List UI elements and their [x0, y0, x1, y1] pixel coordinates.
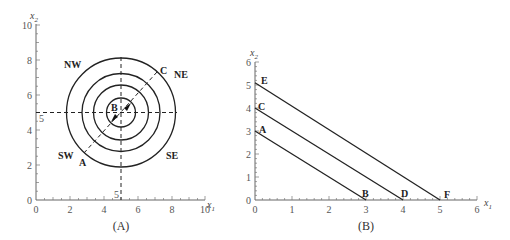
panel-a-y-tick-labels: 0 2 4 6 8 10 [22, 20, 32, 206]
tick-label: 4 [27, 125, 32, 136]
panel-a-x-tick-labels: 0 2 4 6 8 10 [34, 204, 211, 215]
point-a-label: A [79, 157, 87, 168]
point-e-label: E [261, 75, 268, 86]
tick-label: 0 [253, 204, 258, 215]
tick-label: 6 [136, 204, 141, 215]
panel-a-x-ticks [45, 196, 206, 200]
tick-label: 3 [246, 126, 251, 137]
point-a-label: A [259, 124, 267, 135]
point-b-label: B [362, 188, 369, 199]
figure: 0 2 4 6 8 10 0 2 4 6 8 10 x2 x1 [0, 0, 510, 240]
tick-label: 4 [401, 204, 406, 215]
tick-label: 5 [246, 80, 251, 91]
tick-label: 6 [27, 90, 32, 101]
tick-label: 0 [27, 195, 32, 206]
tick-label: 10 [22, 20, 32, 31]
tick-label: 2 [27, 160, 32, 171]
point-f-label: F [444, 189, 450, 200]
panel-a-y-ticks [36, 25, 40, 191]
panel-b-x-axis-label: x1 [483, 197, 492, 211]
tick-label: 1 [290, 204, 295, 215]
panel-b-lines [255, 83, 440, 200]
tick-label: 8 [27, 55, 32, 66]
line-ef [255, 83, 440, 200]
label-sw: SW [58, 150, 74, 161]
line-cd [255, 108, 403, 200]
tick-label: 3 [364, 204, 369, 215]
panel-b-caption: (B) [358, 219, 374, 233]
label-ne: NE [174, 69, 188, 80]
panel-b-labels: A B C D E F [258, 75, 450, 200]
tick-label: 2 [68, 204, 73, 215]
tick-label: 1 [246, 172, 251, 183]
point-c-label: C [160, 65, 167, 76]
point-b-label: B [111, 102, 118, 113]
dashed-label-5-horizontal: 5 [39, 113, 44, 124]
point-d-label: D [401, 188, 408, 199]
label-se: SE [166, 150, 179, 161]
tick-label: 4 [102, 204, 107, 215]
tick-label: 0 [34, 204, 39, 215]
panel-a-dashed-lines [36, 57, 177, 200]
panel-b-x-tick-labels: 0 1 2 3 4 5 6 [253, 204, 480, 215]
tick-label: 2 [246, 149, 251, 160]
panel-a: 0 2 4 6 8 10 0 2 4 6 8 10 x2 x1 [22, 10, 215, 233]
tick-label: 8 [170, 204, 175, 215]
panel-a-caption: (A) [113, 219, 130, 233]
dashed-label-5-vertical: 5 [114, 189, 119, 200]
tick-label: 2 [327, 204, 332, 215]
panel-b: 0 1 2 3 4 5 6 0 1 2 3 4 5 6 x2 x1 A B C [246, 47, 492, 233]
tick-label: 6 [475, 204, 480, 215]
tick-label: 5 [438, 204, 443, 215]
label-nw: NW [64, 59, 81, 70]
tick-label: 4 [246, 103, 251, 114]
line-ab [255, 131, 366, 200]
tick-label: 0 [246, 195, 251, 206]
tick-label: 6 [246, 57, 251, 68]
point-c-label: C [258, 101, 265, 112]
panel-b-y-tick-labels: 0 1 2 3 4 5 6 [246, 57, 251, 206]
